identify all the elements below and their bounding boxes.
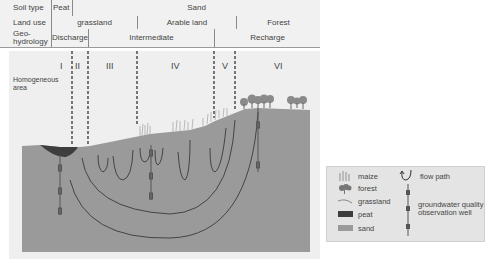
zone-label-4: IV	[171, 61, 180, 71]
forest-icon	[338, 184, 352, 194]
zone-label-5: V	[222, 61, 228, 71]
cell-peat: Peat	[53, 0, 73, 16]
legend-label-peat: peat	[358, 211, 373, 219]
zone-label-1: I	[60, 61, 63, 71]
cell-intermediate: Intermediate	[89, 29, 214, 47]
legend-label-grassland: grassland	[358, 198, 391, 206]
row-header-land-use: Land use	[13, 16, 50, 29]
row-geohydrology: Geo- hydrology Discharge Intermediate Re…	[0, 29, 320, 48]
zone-label-3: III	[106, 61, 114, 71]
homogeneous-area-label: Homogeneous area	[13, 76, 59, 92]
cell-discharge: Discharge	[52, 29, 88, 47]
legend: maize forest grassland peat sand flow pa…	[326, 166, 485, 242]
maize-icon	[338, 171, 352, 181]
peat-swatch	[338, 211, 353, 217]
cell-recharge: Recharge	[215, 29, 320, 47]
legend-label-maize: maize	[358, 173, 378, 181]
cell-grassland: grassland	[52, 16, 137, 29]
legend-label-flow-path: flow path	[420, 173, 450, 181]
zone-label-6: VI	[274, 61, 283, 71]
row-header-soil-type: Soil type	[13, 0, 50, 16]
cross-section-diagram: I II III IV V VI Homogeneous area	[9, 51, 320, 259]
sand-swatch	[338, 225, 353, 231]
cell-arable-land: Arable land	[138, 16, 236, 29]
legend-label-observation-well: groundwater quality observation well	[418, 201, 483, 217]
grassland-icon	[338, 198, 352, 204]
observation-well-icon	[405, 184, 411, 236]
forest-trees	[240, 95, 307, 110]
flow-path-icon	[399, 169, 413, 181]
geohydrology-line-2: hydrology	[13, 38, 48, 46]
row-land-use: Land use grassland Arable land Forest	[0, 16, 320, 30]
legend-label-sand: sand	[358, 225, 374, 233]
cell-forest: Forest	[237, 16, 320, 29]
zone-label-2: II	[75, 61, 80, 71]
row-soil-type: Soil type Peat Sand	[0, 0, 320, 17]
cell-sand: Sand	[73, 0, 320, 16]
sand-body	[22, 108, 310, 252]
legend-label-forest: forest	[358, 185, 377, 193]
row-header-geohydrology: Geo- hydrology	[13, 29, 50, 47]
